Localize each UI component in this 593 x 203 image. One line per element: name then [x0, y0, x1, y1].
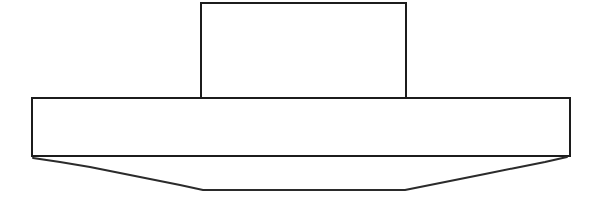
figure-background: [0, 0, 593, 203]
technical-drawing-svg: [0, 0, 593, 203]
figure-root: [0, 0, 593, 203]
